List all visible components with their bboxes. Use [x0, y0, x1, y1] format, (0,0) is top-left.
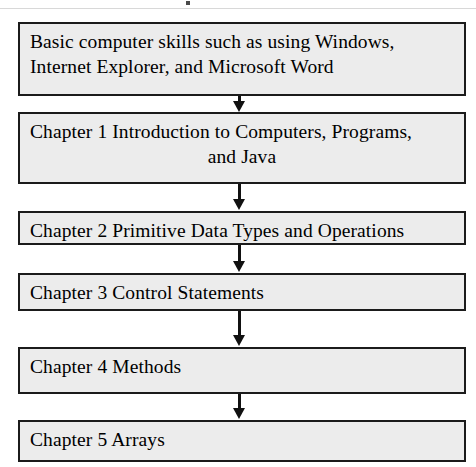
down-arrow-icon [232, 394, 247, 420]
arrow-head [233, 101, 245, 112]
node-chapter3-line-1: Chapter 3 Control Statements [30, 280, 464, 305]
down-arrow-icon [232, 311, 247, 347]
flowchart-node-chapter5: Chapter 5 Arrays [18, 420, 466, 462]
arrow-shaft [238, 311, 241, 337]
node-prereq-line-2: Internet Explorer, and Microsoft Word [30, 54, 464, 79]
node-chapter2-line-1: Chapter 2 Primitive Data Types and Opera… [30, 218, 464, 243]
flowchart-node-chapter1: Chapter 1 Introduction to Computers, Pro… [18, 112, 466, 184]
arrow-head [233, 199, 245, 210]
node-chapter5-line-1: Chapter 5 Arrays [30, 427, 464, 452]
down-arrow-icon [232, 245, 247, 273]
down-arrow-icon [232, 96, 247, 112]
flowchart-node-chapter2: Chapter 2 Primitive Data Types and Opera… [18, 211, 466, 245]
arrow-head [233, 335, 245, 346]
arrow-head [233, 261, 245, 272]
flowchart-node-chapter3: Chapter 3 Control Statements [18, 273, 466, 311]
down-arrow-icon [232, 184, 247, 211]
flowchart-node-prereq: Basic computer skills such as using Wind… [18, 22, 466, 96]
node-prereq-line-1: Basic computer skills such as using Wind… [30, 29, 464, 54]
flowchart-node-chapter4: Chapter 4 Methods [18, 347, 466, 394]
node-chapter1-line-2: and Java [30, 144, 464, 169]
arrow-head [233, 408, 245, 419]
node-chapter1-line-1: Chapter 1 Introduction to Computers, Pro… [30, 119, 464, 144]
node-chapter4-line-1: Chapter 4 Methods [30, 354, 464, 379]
chapter-prerequisite-flowchart: Basic computer skills such as using Wind… [0, 0, 476, 467]
